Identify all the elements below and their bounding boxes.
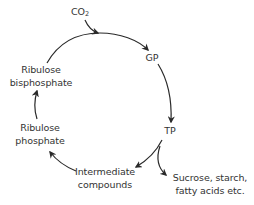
- label-tp: TP: [158, 124, 182, 137]
- label-intermediate-compounds: Intermediate compounds: [70, 165, 140, 191]
- label-co2: CO2: [68, 5, 92, 18]
- co2-subscript: 2: [85, 10, 89, 18]
- rup-line2: phosphate: [10, 134, 70, 147]
- arrow-gp-to-tp: [158, 64, 171, 122]
- rubp-line2: bisphosphate: [6, 76, 76, 89]
- label-ribulose-phosphate: Ribulose phosphate: [10, 121, 70, 147]
- arrow-co2-in: [85, 20, 98, 33]
- products-line2: fatty acids etc.: [168, 184, 252, 197]
- arrow-rubp-to-gp: [47, 33, 148, 63]
- intermediate-line1: Intermediate: [70, 165, 140, 178]
- label-ribulose-bisphosphate: Ribulose bisphosphate: [6, 63, 76, 89]
- rup-line1: Ribulose: [10, 121, 70, 134]
- arrow-rup-to-rubp: [35, 91, 37, 119]
- arrow-tp-to-products: [158, 146, 166, 175]
- products-line1: Sucrose, starch,: [168, 171, 252, 184]
- co2-text: CO: [71, 6, 85, 17]
- intermediate-line2: compounds: [70, 178, 140, 191]
- label-gp: GP: [140, 51, 164, 64]
- rubp-line1: Ribulose: [6, 63, 76, 76]
- label-products: Sucrose, starch, fatty acids etc.: [168, 171, 252, 197]
- tp-text: TP: [158, 124, 182, 137]
- gp-text: GP: [140, 51, 164, 64]
